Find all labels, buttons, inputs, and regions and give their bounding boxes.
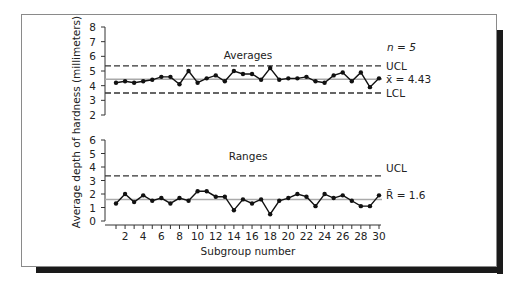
- y-tick-label: 8: [89, 21, 96, 33]
- x-tick-label: 30: [372, 230, 385, 242]
- y-tick-label: 5: [89, 148, 96, 160]
- x-tick-label: 6: [158, 230, 165, 242]
- data-point: [141, 79, 145, 83]
- data-point: [204, 76, 208, 80]
- x-tick-label: 2: [122, 230, 129, 242]
- averages-plot: 2345678: [89, 21, 382, 121]
- y-tick-label: 2: [89, 109, 96, 121]
- y-tick-label: 2: [89, 188, 96, 200]
- data-point: [123, 79, 127, 83]
- data-point: [241, 197, 245, 201]
- data-point: [195, 81, 199, 85]
- data-point: [331, 73, 335, 77]
- data-point: [268, 212, 272, 216]
- y-tick-label: 5: [89, 65, 96, 77]
- ucl-label-averages: UCL: [386, 60, 407, 72]
- data-point: [214, 195, 218, 199]
- data-point: [223, 195, 227, 199]
- data-point: [377, 193, 381, 197]
- y-tick-label: 3: [89, 175, 96, 187]
- data-point: [359, 70, 363, 74]
- data-point: [313, 204, 317, 208]
- y-tick-label: 6: [89, 134, 96, 146]
- data-point: [177, 196, 181, 200]
- data-point: [331, 196, 335, 200]
- data-point: [186, 199, 190, 203]
- x-tick-label: 10: [191, 230, 204, 242]
- data-point: [268, 66, 272, 70]
- data-point: [232, 69, 236, 73]
- data-point: [295, 76, 299, 80]
- data-point: [313, 79, 317, 83]
- ucl-label-ranges: UCL: [386, 162, 407, 174]
- x-tick-label: 4: [140, 230, 147, 242]
- control-chart: Average depth of hardness (millimeters) …: [0, 0, 520, 286]
- data-point: [350, 79, 354, 83]
- data-point: [159, 196, 163, 200]
- x-tick-label: 12: [209, 230, 222, 242]
- data-point: [322, 81, 326, 85]
- x-axis: 24681012141618202224262830: [105, 225, 386, 242]
- data-point: [232, 208, 236, 212]
- data-point: [259, 78, 263, 82]
- x-tick-label: 16: [245, 230, 259, 242]
- rbar-label: R̄ = 1.6: [386, 189, 426, 201]
- data-point: [277, 199, 281, 203]
- data-point: [250, 72, 254, 76]
- y-tick-label: 4: [89, 161, 96, 173]
- data-point: [123, 192, 127, 196]
- data-point: [177, 82, 181, 86]
- x-tick-label: 8: [176, 230, 183, 242]
- x-tick-label: 26: [336, 230, 350, 242]
- data-point: [368, 204, 372, 208]
- x-tick-label: 14: [227, 230, 241, 242]
- data-point: [304, 195, 308, 199]
- data-point: [341, 70, 345, 74]
- x-tick-label: 24: [318, 230, 332, 242]
- sample-size-label: n = 5: [387, 41, 416, 53]
- y-tick-label: 6: [89, 50, 96, 62]
- data-point: [322, 192, 326, 196]
- y-tick-label: 3: [89, 94, 96, 106]
- x-tick-label: 20: [282, 230, 295, 242]
- data-point: [350, 199, 354, 203]
- ranges-title: Ranges: [229, 150, 268, 162]
- data-point: [277, 78, 281, 82]
- data-point: [241, 72, 245, 76]
- x-tick-label: 22: [300, 230, 313, 242]
- data-point: [150, 199, 154, 203]
- x-tick-label: 28: [354, 230, 367, 242]
- y-axis-title: Average depth of hardness (millimeters): [70, 16, 82, 228]
- data-point: [114, 201, 118, 205]
- data-point: [186, 69, 190, 73]
- data-point: [132, 200, 136, 204]
- data-line: [116, 191, 379, 214]
- data-point: [359, 204, 363, 208]
- data-point: [195, 189, 199, 193]
- data-point: [132, 81, 136, 85]
- x-tick-label: 18: [263, 230, 276, 242]
- lcl-label-averages: LCL: [386, 87, 405, 99]
- y-tick-label: 7: [89, 36, 96, 48]
- data-point: [259, 197, 263, 201]
- data-point: [150, 78, 154, 82]
- data-point: [159, 75, 163, 79]
- data-point: [141, 193, 145, 197]
- y-tick-label: 1: [89, 202, 96, 214]
- data-point: [204, 189, 208, 193]
- data-point: [304, 75, 308, 79]
- y-tick-label: 4: [89, 80, 96, 92]
- data-point: [286, 196, 290, 200]
- y-tick-label: 0: [89, 215, 96, 227]
- averages-title: Averages: [224, 49, 273, 61]
- data-point: [377, 76, 381, 80]
- xbar-label: x̄ = 4.43: [386, 73, 431, 85]
- data-point: [286, 76, 290, 80]
- data-point: [295, 192, 299, 196]
- data-point: [168, 75, 172, 79]
- data-point: [114, 81, 118, 85]
- data-point: [168, 201, 172, 205]
- x-axis-title: Subgroup number: [201, 245, 296, 257]
- data-point: [214, 73, 218, 77]
- data-point: [223, 79, 227, 83]
